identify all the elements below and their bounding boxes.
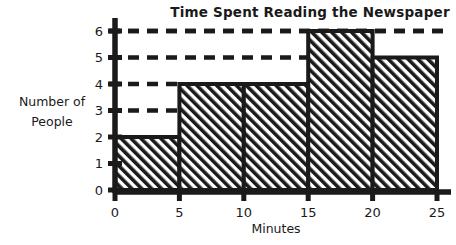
x-tick-label-25: 25 xyxy=(422,206,452,219)
y-tick-label-6: 6 xyxy=(83,25,103,38)
y-tick-label-5: 5 xyxy=(83,51,103,64)
histogram-chart: Time Spent Reading the Newspaper Number … xyxy=(0,0,456,245)
y-tick-label-3: 3 xyxy=(83,104,103,117)
bar-rect xyxy=(373,58,437,191)
bar-20-25 xyxy=(373,58,437,191)
bars-group xyxy=(115,31,437,190)
x-tick-label-10: 10 xyxy=(229,206,259,219)
y-tick-label-1: 1 xyxy=(83,157,103,170)
x-tick-label-0: 0 xyxy=(100,206,130,219)
bar-0-5 xyxy=(115,137,179,190)
bar-rect xyxy=(308,31,372,190)
x-tick-label-20: 20 xyxy=(358,206,388,219)
y-tick-label-0: 0 xyxy=(83,184,103,197)
x-tick-label-15: 15 xyxy=(293,206,323,219)
y-tick-label-4: 4 xyxy=(83,78,103,91)
bar-rect xyxy=(179,84,243,190)
bar-rect xyxy=(244,84,308,190)
y-tick-label-2: 2 xyxy=(83,131,103,144)
bar-rect xyxy=(115,137,179,190)
x-tick-label-5: 5 xyxy=(164,206,194,219)
bar-10-15 xyxy=(244,84,308,190)
bar-5-10 xyxy=(179,84,243,190)
bar-15-20 xyxy=(308,31,372,190)
